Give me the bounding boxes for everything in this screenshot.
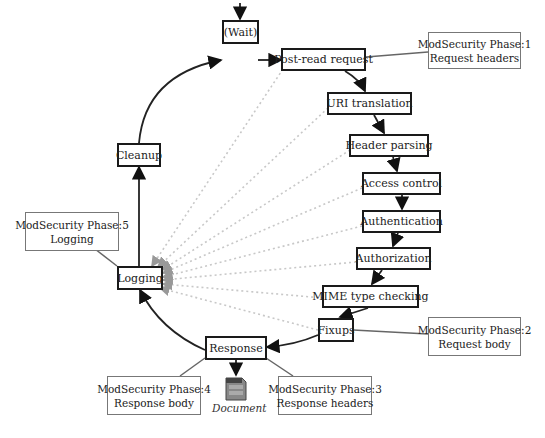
document-label: Document bbox=[212, 402, 267, 414]
phase-1-title: ModSecurity Phase:1 bbox=[418, 37, 532, 51]
node-fixups: Fixups bbox=[318, 318, 354, 342]
node-authorization: Authorization bbox=[356, 247, 431, 270]
node-authentication: Authentication bbox=[362, 210, 441, 233]
node-cleanup: Cleanup bbox=[117, 143, 161, 167]
phase-1-box: ModSecurity Phase:1 Request headers bbox=[428, 32, 521, 69]
phase-5-title: ModSecurity Phase:5 bbox=[15, 218, 129, 232]
node-access-control: Access control bbox=[362, 172, 441, 195]
dotted-edge-post-read bbox=[152, 69, 283, 266]
node-mime-type-checking: MIME type checking bbox=[322, 285, 419, 308]
phase-3-title: ModSecurity Phase:3 bbox=[268, 382, 382, 396]
phase-2-box: ModSecurity Phase:2 Request body bbox=[428, 317, 521, 356]
node-response: Response bbox=[205, 336, 267, 360]
dotted-edge-fixups bbox=[160, 288, 318, 330]
document-icon bbox=[226, 378, 246, 400]
phase-2-title: ModSecurity Phase:2 bbox=[418, 323, 532, 337]
dotted-edge-authz bbox=[163, 262, 356, 280]
phase-2-subtitle: Request body bbox=[438, 337, 510, 351]
dotted-edge-uri bbox=[158, 108, 328, 267]
phase-5-box: ModSecurity Phase:5 Logging bbox=[25, 212, 119, 251]
phase-4-title: ModSecurity Phase:4 bbox=[97, 382, 211, 396]
node-header-parsing: Header parsing bbox=[349, 134, 429, 157]
node-uri-translation: URI translation bbox=[327, 92, 412, 115]
dotted-edge-header bbox=[162, 150, 350, 270]
phase-3-subtitle: Response headers bbox=[277, 396, 374, 410]
node-post-read-request: Post-read request bbox=[281, 48, 366, 71]
node-wait: (Wait) bbox=[222, 20, 259, 44]
phase-4-box: ModSecurity Phase:4 Response body bbox=[107, 376, 201, 415]
node-logging: Logging bbox=[117, 266, 163, 290]
phase-4-subtitle: Response body bbox=[114, 396, 194, 410]
phase-5-subtitle: Logging bbox=[50, 232, 94, 246]
phase-3-box: ModSecurity Phase:3 Response headers bbox=[278, 376, 372, 415]
dotted-edge-authn bbox=[163, 226, 362, 277]
phase-1-subtitle: Request headers bbox=[430, 51, 519, 65]
dotted-edge-access bbox=[163, 188, 362, 273]
